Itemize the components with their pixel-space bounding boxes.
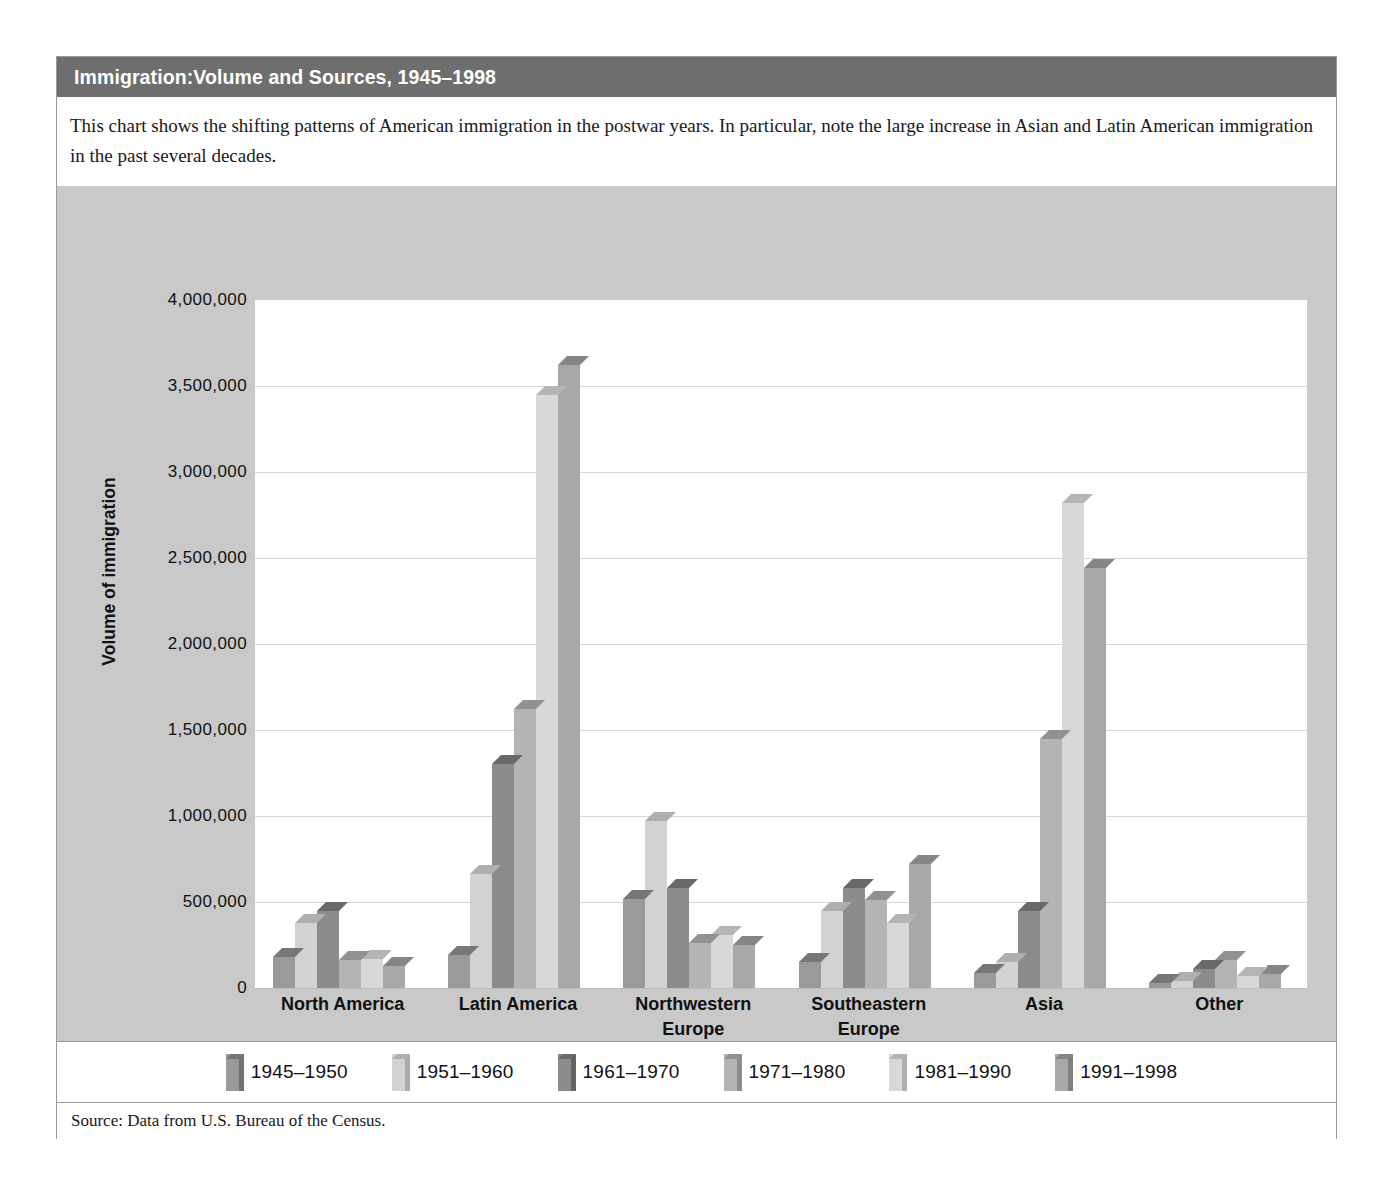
- bar-face: [865, 900, 887, 988]
- bar-face: [514, 709, 536, 988]
- legend-swatch-icon: [226, 1054, 239, 1091]
- bar-face: [711, 935, 733, 988]
- bar-top: [865, 891, 896, 900]
- x-axis-label: Other: [1112, 992, 1327, 1017]
- bar-top: [383, 957, 414, 966]
- caption-text: This chart shows the shifting patterns o…: [70, 111, 1314, 171]
- legend-item[interactable]: 1981–1990: [889, 1054, 1011, 1091]
- y-axis-tick: 3,500,000: [168, 376, 247, 396]
- y-axis-tick: 3,000,000: [168, 462, 247, 482]
- bar: [448, 955, 470, 988]
- bar: [887, 923, 909, 988]
- bar-top: [1084, 559, 1115, 568]
- bar: [1062, 503, 1084, 988]
- bar: [711, 935, 733, 988]
- page-title: Immigration:Volume and Sources, 1945–199…: [57, 66, 496, 89]
- bar-face: [887, 923, 909, 988]
- legend-item[interactable]: 1961–1970: [558, 1054, 680, 1091]
- bar-top: [843, 879, 874, 888]
- bar-face: [733, 945, 755, 988]
- bar: [558, 365, 580, 988]
- bar-group: [623, 300, 755, 988]
- bar-group: [974, 300, 1106, 988]
- legend-item[interactable]: 1971–1980: [724, 1054, 846, 1091]
- bar-face: [1149, 983, 1171, 988]
- bar-face: [273, 957, 295, 988]
- y-axis-tick: 1,500,000: [168, 720, 247, 740]
- bar: [667, 888, 689, 988]
- bar: [1040, 739, 1062, 988]
- bar: [799, 962, 821, 988]
- legend-swatch-icon: [558, 1054, 571, 1091]
- bar-face: [821, 911, 843, 988]
- bar-face: [1018, 911, 1040, 988]
- legend-swatch-icon: [392, 1054, 405, 1091]
- bar: [514, 709, 536, 988]
- figure-page: Immigration:Volume and Sources, 1945–199…: [0, 0, 1383, 1187]
- bar-face: [448, 955, 470, 988]
- source-bar: Source: Data from U.S. Bureau of the Cen…: [57, 1103, 1336, 1139]
- bar: [821, 911, 843, 988]
- figure-caption: This chart shows the shifting patterns o…: [57, 97, 1336, 186]
- bar-face: [470, 874, 492, 988]
- y-axis-tick: 500,000: [183, 892, 247, 912]
- bar-group: [448, 300, 580, 988]
- bar-face: [689, 943, 711, 988]
- y-axis-tick: 1,000,000: [168, 806, 247, 826]
- bar-face: [1237, 976, 1259, 988]
- bar: [974, 973, 996, 988]
- bar: [645, 821, 667, 988]
- legend-label: 1961–1970: [583, 1061, 680, 1083]
- bar-group: [273, 300, 405, 988]
- bar-face: [383, 966, 405, 988]
- legend-label: 1951–1960: [417, 1061, 514, 1083]
- bar: [492, 764, 514, 988]
- y-axis-tick: 2,000,000: [168, 634, 247, 654]
- bar-face: [1084, 568, 1106, 988]
- legend-swatch-icon: [889, 1054, 902, 1091]
- bar-face: [558, 365, 580, 988]
- bar: [273, 957, 295, 988]
- legend-label: 1981–1990: [914, 1061, 1011, 1083]
- bar: [383, 966, 405, 988]
- legend-item[interactable]: 1991–1998: [1055, 1054, 1177, 1091]
- bar-top: [909, 855, 940, 864]
- y-axis-tick-labels: 4,000,0003,500,0003,000,0002,500,0002,00…: [117, 186, 253, 1041]
- bar-top: [733, 936, 764, 945]
- legend-label: 1991–1998: [1080, 1061, 1177, 1083]
- bar-group: [799, 300, 931, 988]
- legend-item[interactable]: 1945–1950: [226, 1054, 348, 1091]
- legend-swatch-icon: [1055, 1054, 1068, 1091]
- bar: [1237, 976, 1259, 988]
- bar: [1171, 981, 1193, 988]
- bar: [536, 395, 558, 988]
- bar: [689, 943, 711, 988]
- bar-top: [558, 356, 589, 365]
- bar-top: [667, 879, 698, 888]
- bar-top: [645, 812, 676, 821]
- bar-face: [1171, 981, 1193, 988]
- plot-area: [255, 300, 1307, 988]
- bar-face: [339, 960, 361, 988]
- bar-face: [295, 923, 317, 988]
- bar-group: [1149, 300, 1281, 988]
- bar: [295, 923, 317, 988]
- bar-top: [317, 902, 348, 911]
- bar-top: [1062, 494, 1093, 503]
- bar: [865, 900, 887, 988]
- legend-swatch-icon: [724, 1054, 737, 1091]
- legend-label: 1945–1950: [251, 1061, 348, 1083]
- bar-face: [667, 888, 689, 988]
- legend-label: 1971–1980: [749, 1061, 846, 1083]
- bar-face: [799, 962, 821, 988]
- bar: [909, 864, 931, 988]
- bar: [1149, 983, 1171, 988]
- chart-legend: 1945–19501951–19601961–19701971–19801981…: [57, 1041, 1336, 1103]
- legend-item[interactable]: 1951–1960: [392, 1054, 514, 1091]
- y-axis-tick: 4,000,000: [168, 290, 247, 310]
- bar-face: [623, 899, 645, 988]
- bar-face: [1062, 503, 1084, 988]
- bar-face: [1040, 739, 1062, 988]
- bar: [1259, 974, 1281, 988]
- bar-face: [1259, 974, 1281, 988]
